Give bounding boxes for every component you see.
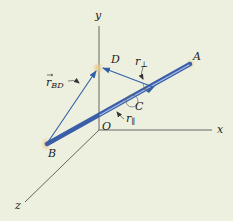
z-axis (25, 130, 99, 202)
point-B-label: B (47, 147, 56, 160)
rod-AB (47, 64, 190, 144)
support-D (92, 62, 104, 74)
r-perp-label: r⊥ (135, 55, 148, 69)
origin-label: O (102, 120, 111, 133)
point-D-label: D (110, 53, 120, 66)
r-BD-label: rBD (46, 76, 64, 90)
r-parallel-leader (117, 112, 124, 119)
point-C-label: C (135, 100, 144, 113)
point-A-label: A (192, 50, 201, 63)
z-axis-label: z (14, 199, 21, 212)
r-BD-leader (68, 80, 79, 83)
x-axis-label: x (217, 123, 224, 136)
vector-diagram: y x z O A B C D rBD r⊥ r∥ (0, 0, 233, 221)
y-axis-label: y (94, 9, 102, 22)
r-parallel-label: r∥ (126, 112, 135, 126)
r-perp-vector (103, 68, 153, 87)
